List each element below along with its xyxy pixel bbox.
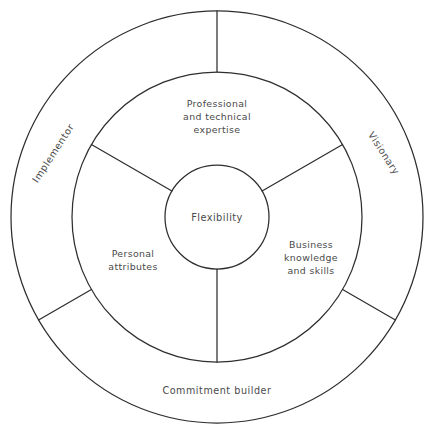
inner-segment-label-line-3: and skills	[287, 265, 334, 276]
outer-divider-lower-left	[39, 290, 92, 321]
inner-segment-business-knowledge-and-skills: Business knowledge and skills	[284, 239, 338, 276]
inner-segment-label-line-2: and technical	[183, 111, 251, 122]
inner-segment-label-line-1: Business	[289, 239, 333, 250]
inner-segment-label-line-2: attributes	[108, 261, 157, 272]
inner-segment-label-line-1: Professional	[187, 98, 248, 109]
outer-segment-visionary: Visionary	[366, 130, 402, 177]
inner-segment-label-line-3: expertise	[194, 124, 241, 135]
outer-segment-commitment-builder: Commitment builder	[162, 385, 271, 396]
inner-segment-professional-technical-expertise: Professional and technical expertise	[183, 98, 251, 135]
core-label-group: Flexibility	[191, 212, 243, 223]
diagram-canvas: Flexibility Professional and technical e…	[0, 0, 435, 440]
inner-divider-upper-right	[262, 145, 343, 192]
outer-segment-implementor: Implementor	[30, 122, 76, 185]
competency-wheel-diagram: Flexibility Professional and technical e…	[0, 0, 435, 440]
inner-segment-label-line-2: knowledge	[284, 252, 338, 263]
outer-segment-label-visionary: Visionary	[366, 130, 402, 177]
outer-segment-label-implementor: Implementor	[30, 122, 76, 185]
inner-segment-label-line-1: Personal	[112, 248, 155, 259]
core-label: Flexibility	[191, 212, 243, 223]
outer-divider-lower-right	[343, 290, 396, 321]
inner-segment-personal-attributes: Personal attributes	[108, 248, 157, 272]
outer-segment-label-commitment-builder: Commitment builder	[162, 385, 271, 396]
inner-divider-upper-left	[91, 145, 171, 192]
